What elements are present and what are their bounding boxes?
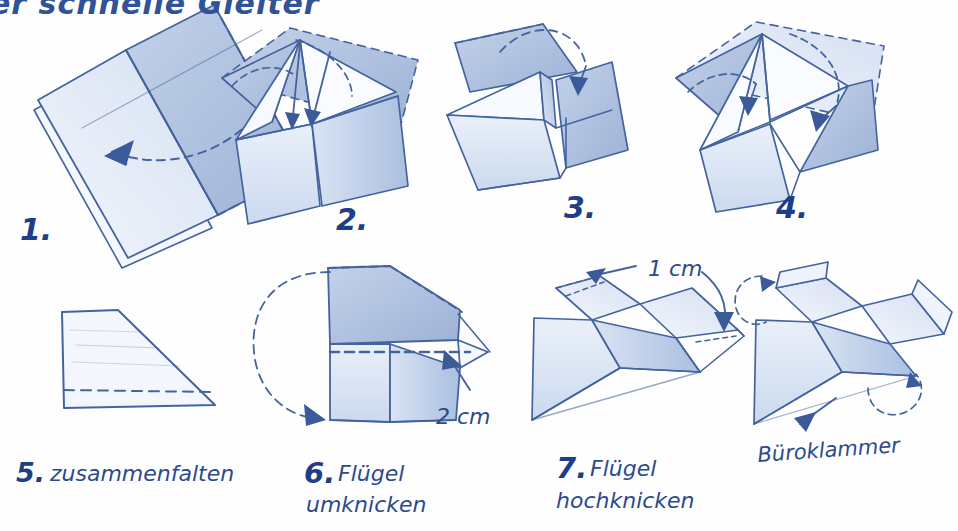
- step-6-caption-line-2: umknicken: [306, 492, 426, 517]
- step-7-number: 7.: [556, 451, 587, 485]
- step-4-number: 4.: [775, 190, 808, 225]
- step-3-number: 3.: [564, 190, 596, 225]
- text-layer: er schnelle Gleiter 1. 2. 3. 4. 5. zusam…: [0, 0, 958, 531]
- step-5-caption: zusammenfalten: [49, 461, 234, 486]
- step-6-caption-line-1: Flügel: [338, 461, 404, 486]
- step-6-number: 6.: [304, 456, 335, 490]
- step-2-number: 2.: [336, 202, 368, 237]
- measure-2cm-label: 2 cm: [436, 404, 491, 429]
- step-5-number: 5.: [16, 457, 45, 488]
- page-title: er schnelle Gleiter: [0, 0, 321, 21]
- measure-1cm-label: 1 cm: [648, 256, 703, 281]
- instruction-sheet: er schnelle Gleiter 1. 2. 3. 4. 5. zusam…: [0, 0, 958, 531]
- step-7-caption-line-2: hochknicken: [556, 488, 695, 513]
- step-1-number: 1.: [20, 212, 52, 247]
- paperclip-label: Büroklammer: [757, 433, 902, 467]
- step-7-caption-line-1: Flügel: [590, 456, 656, 481]
